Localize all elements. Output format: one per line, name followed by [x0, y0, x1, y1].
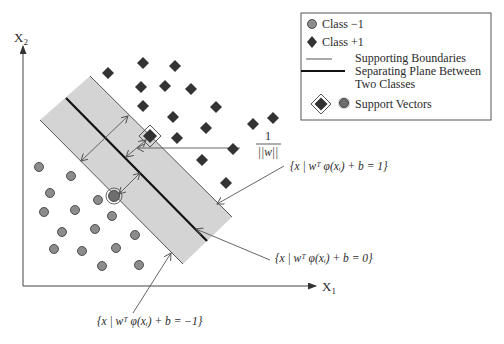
class-plus-point: [137, 57, 149, 69]
class-plus-point: [171, 132, 183, 144]
legend-label-class-minus: Class −1: [322, 17, 364, 31]
class-minus-point: [112, 244, 121, 253]
legend-label-class-plus: Class +1: [322, 35, 364, 49]
class-plus-point: [220, 177, 232, 189]
class-minus-point: [58, 228, 67, 237]
eq-minus-label: {x | wᵀ φ(xᵢ) + b = −1}: [97, 315, 203, 328]
class-minus-point: [35, 163, 44, 172]
class-plus-point: [159, 80, 171, 92]
class-minus-point: [71, 206, 80, 215]
legend-label-supporting-boundaries: Supporting Boundaries: [355, 51, 466, 65]
class-minus-point: [91, 225, 100, 234]
class-minus-point: [94, 196, 103, 205]
margin-numerator: 1: [265, 129, 271, 143]
class-minus-point: [108, 212, 117, 221]
class-plus-point: [227, 143, 239, 155]
legend: Class −1 Class +1 Supporting Boundaries …: [301, 13, 491, 120]
class-minus-point: [78, 247, 87, 256]
class-plus-point: [137, 100, 149, 112]
class-minus-point: [50, 245, 59, 254]
class-minus-point: [131, 231, 140, 240]
class-minus-point: [98, 262, 107, 271]
legend-circle-icon: [308, 20, 317, 29]
class-plus-point: [196, 154, 208, 166]
class-plus-point: [247, 118, 259, 130]
class-plus-point: [200, 122, 212, 134]
margin-denominator: ||w||: [258, 146, 278, 159]
legend-label-separating-plane-2: Two Classes: [355, 77, 415, 91]
class-plus-point: [267, 112, 279, 124]
class-minus-point: [135, 261, 144, 270]
legend-label-separating-plane-1: Separating Plane Between: [355, 64, 481, 78]
class-minus-point: [40, 208, 49, 217]
class-plus-point: [185, 83, 197, 95]
class-minus-point: [46, 189, 55, 198]
eq-plus-label: {x | wᵀ φ(xᵢ) + b = 1}: [290, 160, 388, 173]
legend-label-support-vectors: Support Vectors: [355, 97, 432, 111]
eq-zero-label: {x | wᵀ φ(xᵢ) + b = 0}: [275, 252, 373, 265]
class-plus-point: [169, 60, 181, 72]
class-minus-point: [67, 172, 76, 181]
svm-diagram: X2 X1 1 ||w|| {x | wᵀ φ(xᵢ) + b = 1} {x …: [0, 0, 504, 344]
legend-support-circle-icon: [338, 97, 350, 109]
class-plus-point: [167, 111, 179, 123]
class-plus-point: [210, 101, 222, 113]
support-vector-minus: [106, 188, 122, 204]
class-plus-point: [102, 67, 114, 79]
separating-plane: [66, 98, 207, 241]
class-plus-point: [135, 81, 147, 93]
x-axis-label: X1: [322, 279, 336, 296]
eq-zero-leader: [196, 229, 270, 260]
margin-width-label: 1 ||w||: [256, 129, 281, 159]
y-axis-label: X2: [14, 30, 28, 47]
